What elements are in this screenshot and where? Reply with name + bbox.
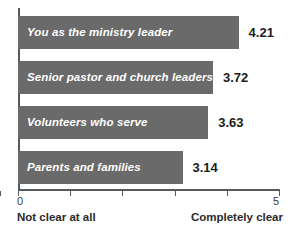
bar-chart: You as the ministry leader 4.21 Senior p…	[0, 0, 300, 239]
x-axis-tick-5	[279, 191, 280, 196]
bar-value-label: 3.72	[223, 61, 248, 94]
bar-category-label: Senior pastor and church leaders	[27, 61, 213, 94]
plot-area: You as the ministry leader 4.21 Senior p…	[0, 0, 300, 239]
x-axis-tick-3	[0, 191, 1, 196]
bar-row: Volunteers who serve 3.63	[18, 106, 280, 139]
bar-category-label: Parents and families	[27, 151, 141, 184]
bar-row: Senior pastor and church leaders 3.72	[18, 61, 280, 94]
bar-row: You as the ministry leader 4.21	[18, 16, 280, 49]
x-axis-tick-1	[70, 191, 71, 196]
x-axis-tick-2	[122, 191, 123, 196]
bar-value-label: 4.21	[249, 16, 274, 49]
bar-value-label: 3.63	[218, 106, 243, 139]
x-axis-max-label: 5	[273, 195, 279, 207]
bar-row: Parents and families 3.14	[18, 151, 280, 184]
bar-value-label: 3.14	[193, 151, 218, 184]
scale-anchor-right: Completely clear	[191, 211, 283, 223]
bar-category-label: You as the ministry leader	[27, 16, 172, 49]
x-axis-tick-4	[227, 191, 228, 196]
bars-container: You as the ministry leader 4.21 Senior p…	[18, 8, 280, 189]
x-axis-line	[18, 189, 280, 191]
scale-anchor-left: Not clear at all	[17, 211, 96, 223]
x-axis-min-label: 0	[17, 195, 23, 207]
x-axis-tick-3b	[175, 191, 176, 196]
bar-category-label: Volunteers who serve	[27, 106, 147, 139]
